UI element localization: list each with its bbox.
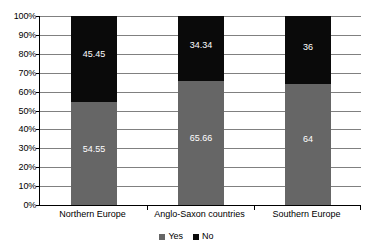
y-axis-tick xyxy=(36,186,40,187)
y-axis-tick xyxy=(36,35,40,36)
x-axis-category-labels: Northern Europe Anglo-Saxon countries So… xyxy=(39,209,360,225)
y-axis-tick xyxy=(36,167,40,168)
bar-value-label: 45.45 xyxy=(71,50,117,59)
bar-group[interactable]: 64 36 xyxy=(285,16,331,205)
x-axis-category-label: Northern Europe xyxy=(39,209,146,220)
x-axis-category-label: Southern Europe xyxy=(253,209,360,220)
y-axis-tick-label: 20% xyxy=(0,163,36,172)
y-axis-tick xyxy=(36,148,40,149)
y-axis-tick xyxy=(36,129,40,130)
y-axis-tick-label: 70% xyxy=(0,69,36,78)
bar-value-label: 65.66 xyxy=(178,134,224,143)
bar-segment-no[interactable]: 36 xyxy=(285,16,331,84)
legend-item-no[interactable]: No xyxy=(193,232,214,241)
plot-area: 54.55 45.45 65.66 34.34 64 36 xyxy=(39,16,361,206)
bar-value-label: 34.34 xyxy=(178,41,224,50)
y-axis-tick-label: 50% xyxy=(0,107,36,116)
y-axis-tick-label: 60% xyxy=(0,88,36,97)
bar-group[interactable]: 54.55 45.45 xyxy=(71,16,117,205)
x-axis-tick xyxy=(360,206,361,210)
bar-segment-yes[interactable]: 65.66 xyxy=(178,81,224,205)
y-axis-tick-labels: 100% 90% 80% 70% 60% 50% 40% 30% 20% 10%… xyxy=(0,16,36,205)
bar-segment-yes[interactable]: 64 xyxy=(285,84,331,205)
legend-swatch-icon xyxy=(193,234,199,240)
y-axis-tick xyxy=(36,111,40,112)
legend-swatch-icon xyxy=(159,234,165,240)
y-axis-tick xyxy=(36,205,40,206)
bar-value-label: 36 xyxy=(285,43,331,52)
y-axis-tick-label: 10% xyxy=(0,182,36,191)
legend-item-yes[interactable]: Yes xyxy=(159,232,183,241)
legend: Yes No xyxy=(0,232,373,241)
bar-group[interactable]: 65.66 34.34 xyxy=(178,16,224,205)
legend-label: No xyxy=(202,232,214,241)
legend-label: Yes xyxy=(168,232,183,241)
y-axis-tick-label: 90% xyxy=(0,31,36,40)
bar-segment-yes[interactable]: 54.55 xyxy=(71,102,117,205)
stacked-bar-chart: 100% 90% 80% 70% 60% 50% 40% 30% 20% 10%… xyxy=(0,0,373,250)
bar-segment-no[interactable]: 34.34 xyxy=(178,16,224,81)
y-axis-tick xyxy=(36,73,40,74)
y-axis-tick xyxy=(36,92,40,93)
y-axis-tick-label: 40% xyxy=(0,125,36,134)
bar-segment-no[interactable]: 45.45 xyxy=(71,16,117,102)
bar-value-label: 54.55 xyxy=(71,145,117,154)
y-axis-tick-label: 0% xyxy=(0,201,36,210)
x-axis-category-label: Anglo-Saxon countries xyxy=(146,209,253,220)
y-axis-tick xyxy=(36,54,40,55)
y-axis-tick-label: 30% xyxy=(0,144,36,153)
y-axis-tick-label: 100% xyxy=(0,12,36,21)
y-axis-tick xyxy=(36,16,40,17)
y-axis-tick-label: 80% xyxy=(0,50,36,59)
bar-value-label: 64 xyxy=(285,135,331,144)
